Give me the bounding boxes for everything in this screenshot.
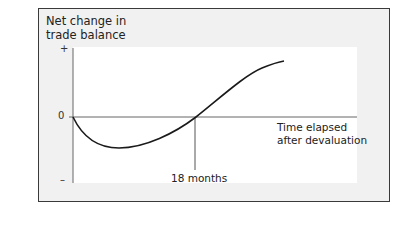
j-curve-line bbox=[73, 61, 284, 148]
x-axis-label: Time elapsed after devaluation bbox=[277, 121, 367, 147]
x-axis-label-line1: Time elapsed bbox=[277, 121, 367, 134]
eighteen-months-label: 18 months bbox=[171, 172, 227, 184]
x-axis-label-line2: after devaluation bbox=[277, 134, 367, 147]
